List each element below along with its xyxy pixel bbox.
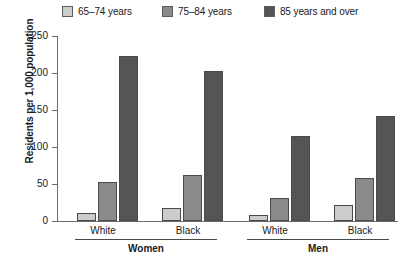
bar-men-white-65-74 — [249, 215, 268, 221]
y-axis-line — [57, 36, 58, 222]
bar-men-black-65-74 — [334, 205, 353, 221]
bar-women-white-75-84 — [98, 182, 117, 221]
y-tick-label-200: 200 — [22, 67, 48, 78]
legend-item-85-over: 85 years and over — [264, 6, 358, 17]
bar-men-white-85-over — [291, 136, 310, 221]
x-axis-line — [57, 221, 398, 222]
group-rule-men — [247, 239, 389, 240]
x-label-men-black: Black — [335, 225, 385, 236]
legend-item-75-84: 75–84 years — [162, 6, 232, 17]
bar-women-white-85-over — [119, 56, 138, 221]
x-label-women-white: White — [78, 225, 128, 236]
legend-swatch-85-over — [264, 6, 275, 17]
bar-men-black-75-84 — [355, 178, 374, 221]
y-tick-0: 0 — [52, 221, 57, 222]
plot-area: 250 200 150 100 50 0 — [57, 36, 397, 221]
legend-label-65-74: 65–74 years — [78, 6, 132, 17]
legend-swatch-75-84 — [162, 6, 173, 17]
bar-women-white-65-74 — [77, 213, 96, 221]
chart-legend: 65–74 years 75–84 years 85 years and ove… — [62, 3, 402, 19]
x-label-women-black: Black — [163, 225, 213, 236]
bar-men-black-85-over — [376, 116, 395, 221]
y-tick-50: 50 — [52, 184, 57, 185]
bar-women-black-85-over — [204, 71, 223, 221]
y-tick-label-50: 50 — [22, 178, 48, 189]
y-axis-title: Residents per 1,000 population — [24, 0, 35, 182]
y-tick-label-250: 250 — [22, 30, 48, 41]
legend-swatch-65-74 — [62, 6, 73, 17]
y-tick-label-0: 0 — [22, 215, 48, 226]
legend-label-85-over: 85 years and over — [280, 6, 358, 17]
y-tick-label-150: 150 — [22, 104, 48, 115]
y-tick-200: 200 — [52, 73, 57, 74]
group-label-women: Women — [75, 243, 217, 254]
bar-women-black-75-84 — [183, 175, 202, 221]
bar-women-black-65-74 — [162, 208, 181, 221]
y-tick-150: 150 — [52, 110, 57, 111]
y-tick-100: 100 — [52, 147, 57, 148]
legend-label-75-84: 75–84 years — [178, 6, 232, 17]
y-tick-label-100: 100 — [22, 141, 48, 152]
group-label-men: Men — [247, 243, 389, 254]
bar-chart: 65–74 years 75–84 years 85 years and ove… — [0, 0, 415, 264]
bar-men-white-75-84 — [270, 198, 289, 221]
group-rule-women — [75, 239, 217, 240]
y-tick-250: 250 — [52, 36, 57, 37]
x-label-men-white: White — [250, 225, 300, 236]
legend-item-65-74: 65–74 years — [62, 6, 132, 17]
y-axis-title-container: Residents per 1,000 population — [14, 0, 28, 185]
